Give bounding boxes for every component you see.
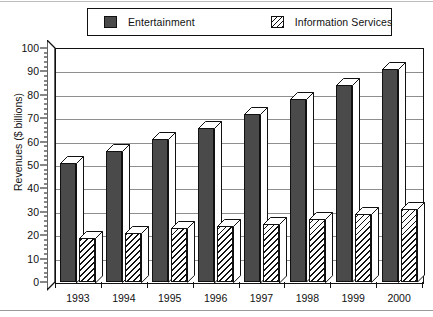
bar-entertainment-1996 — [198, 128, 214, 282]
bar-entertainment-2000 — [382, 69, 398, 282]
bar-front-face — [309, 219, 325, 282]
y-tick-label-50: 50 — [27, 159, 39, 171]
y-axis-title: Revenues ($ billions) — [12, 67, 24, 217]
bar-front-face — [382, 69, 398, 282]
bar-side-face — [233, 219, 242, 284]
bar-front-face — [198, 128, 214, 282]
bar-front-face — [336, 85, 352, 282]
bar-entertainment-1999 — [336, 85, 352, 282]
legend-swatch-information-services-icon — [271, 16, 284, 28]
bar-information-services-2000 — [401, 209, 417, 282]
y-tick-label-100: 100 — [21, 42, 39, 54]
figure-top-rule — [0, 1, 433, 2]
bar-side-face — [187, 221, 196, 284]
legend-label-information-services: Information Services — [295, 16, 393, 28]
chart-figure: Entertainment Information Services Reven… — [0, 0, 433, 317]
bar-side-face — [371, 207, 380, 284]
bar-information-services-1995 — [171, 228, 187, 282]
chart-legend: Entertainment Information Services — [87, 8, 392, 36]
bar-information-services-1997 — [263, 224, 279, 283]
bar-information-services-1994 — [125, 233, 141, 282]
bar-front-face — [263, 224, 279, 283]
y-tick-label-80: 80 — [27, 89, 39, 101]
bar-entertainment-1997 — [244, 114, 260, 282]
bar-front-face — [401, 209, 417, 282]
bar-front-face — [125, 233, 141, 282]
y-tick-label-0: 0 — [33, 276, 39, 288]
bar-front-face — [217, 226, 233, 282]
legend-entry-entertainment: Entertainment — [104, 16, 195, 28]
y-tick-label-40: 40 — [27, 182, 39, 194]
bar-side-face — [325, 212, 334, 284]
y-tick-label-70: 70 — [27, 112, 39, 124]
bar-front-face — [79, 238, 95, 282]
bar-information-services-1998 — [309, 219, 325, 282]
bar-side-face — [279, 217, 288, 285]
bar-side-face — [141, 226, 150, 284]
bars-layer — [55, 48, 422, 282]
bar-entertainment-1998 — [290, 99, 306, 282]
bar-front-face — [60, 163, 76, 282]
bar-entertainment-1993 — [60, 163, 76, 282]
bar-front-face — [171, 228, 187, 282]
bar-front-face — [355, 214, 371, 282]
y-tick-label-20: 20 — [27, 229, 39, 241]
legend-swatch-entertainment-icon — [104, 16, 117, 28]
bar-front-face — [106, 151, 122, 282]
bar-entertainment-1994 — [106, 151, 122, 282]
bar-entertainment-1995 — [152, 139, 168, 282]
legend-label-entertainment: Entertainment — [128, 16, 195, 28]
y-tick-label-90: 90 — [27, 65, 39, 77]
figure-bottom-rule — [0, 310, 433, 311]
bar-front-face — [290, 99, 306, 282]
y-tick-label-10: 10 — [27, 253, 39, 265]
bar-information-services-1996 — [217, 226, 233, 282]
legend-entry-information-services: Information Services — [271, 16, 393, 28]
y-tick-label-60: 60 — [27, 136, 39, 148]
bar-information-services-1993 — [79, 238, 95, 282]
bar-front-face — [244, 114, 260, 282]
bar-front-face — [152, 139, 168, 282]
bar-side-face — [95, 231, 104, 284]
y-tick-label-30: 30 — [27, 206, 39, 218]
bar-information-services-1999 — [355, 214, 371, 282]
